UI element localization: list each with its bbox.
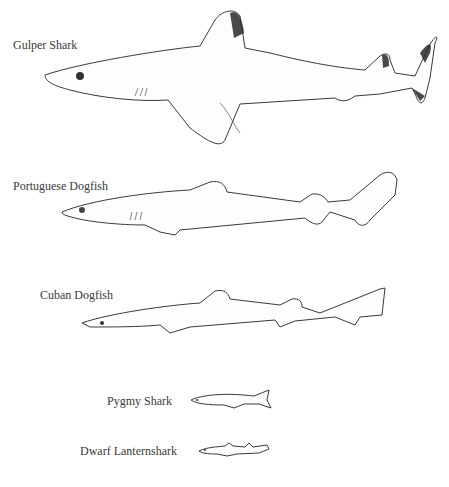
label-pygmy-shark: Pygmy Shark [107,394,172,409]
pygmy-shark-illustration [189,388,274,412]
portuguese-dogfish-illustration [60,170,405,255]
gulper-shark-illustration [40,8,440,143]
label-dwarf-lanternshark: Dwarf Lanternshark [80,444,177,459]
dwarf-lanternshark-illustration [197,440,272,460]
cuban-dogfish-illustration [80,285,390,345]
